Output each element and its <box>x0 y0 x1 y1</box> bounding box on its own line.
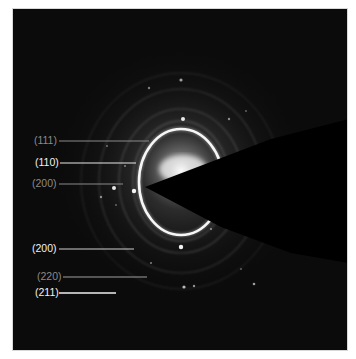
label-200-dim: (200) <box>32 177 57 189</box>
diffraction-pattern-graphic <box>13 9 348 351</box>
label-200-bright: (200) <box>32 242 57 254</box>
label-111: (111) <box>34 134 57 146</box>
label-220: (220) <box>37 270 62 282</box>
diffraction-pattern-image <box>12 8 348 351</box>
label-211: (211) <box>35 286 59 298</box>
label-110: (110) <box>35 156 59 168</box>
